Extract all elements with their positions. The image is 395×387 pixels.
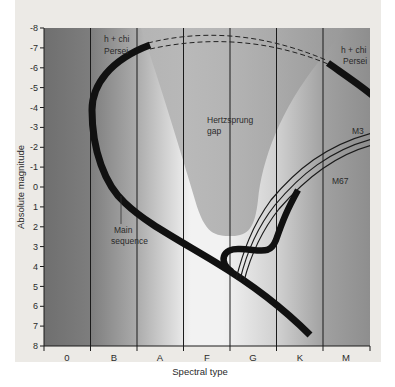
m67-label: M67 (332, 176, 349, 186)
svg-text:0: 0 (64, 352, 69, 363)
hchi-persei-label-right: h + chi (341, 45, 366, 55)
x-axis-title: Spectral type (172, 366, 227, 377)
svg-text:-5: -5 (30, 83, 38, 93)
hchi-persei-label-right-2: Persei (343, 56, 367, 66)
svg-text:8: 8 (33, 341, 38, 351)
hchi-persei-label-left-2: Persei (104, 46, 128, 56)
svg-text:-4: -4 (30, 103, 38, 113)
x-category-labels: 0 B A F G K M (64, 352, 350, 363)
hr-diagram: -8 -7 -6 -5 -4 -3 -2 -1 0 1 2 3 4 5 6 7 … (0, 0, 395, 387)
svg-text:6: 6 (33, 301, 38, 311)
svg-text:F: F (204, 352, 210, 363)
hertzsprung-gap-label: Hertzsprung (207, 115, 254, 125)
m3-label: M3 (352, 126, 364, 136)
hertzsprung-gap-label-2: gap (207, 126, 221, 136)
y-axis-title: Absolute magnitude (15, 145, 26, 229)
svg-text:A: A (157, 352, 164, 363)
svg-text:-1: -1 (30, 162, 38, 172)
svg-text:B: B (111, 352, 117, 363)
svg-text:5: 5 (33, 282, 38, 292)
svg-text:3: 3 (33, 242, 38, 252)
y-tick-labels: -8 -7 -6 -5 -4 -3 -2 -1 0 1 2 3 4 5 6 7 … (30, 23, 38, 351)
svg-text:1: 1 (33, 202, 38, 212)
svg-text:4: 4 (33, 262, 38, 272)
svg-text:-3: -3 (30, 122, 38, 132)
svg-text:0: 0 (33, 182, 38, 192)
main-sequence-label-2: sequence (111, 236, 148, 246)
svg-text:M: M (342, 352, 350, 363)
svg-text:-7: -7 (30, 43, 38, 53)
svg-text:-8: -8 (30, 23, 38, 33)
svg-text:-6: -6 (30, 63, 38, 73)
svg-text:G: G (249, 352, 256, 363)
svg-text:K: K (297, 352, 304, 363)
svg-text:-2: -2 (30, 142, 38, 152)
svg-text:7: 7 (33, 321, 38, 331)
hchi-persei-label-left: h + chi (104, 34, 129, 44)
main-sequence-label: Main (114, 225, 133, 235)
svg-text:2: 2 (33, 222, 38, 232)
